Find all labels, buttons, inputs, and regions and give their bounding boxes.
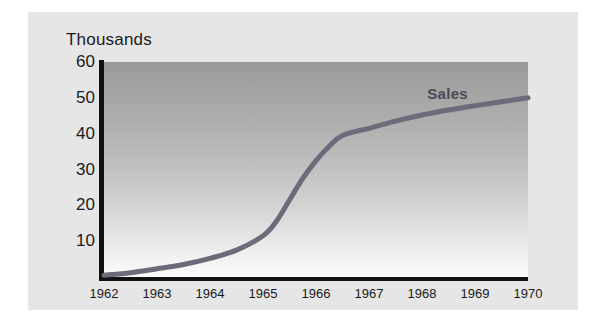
x-tick-label-1967: 1967 [355,286,384,301]
x-tick-label-1968: 1968 [408,286,437,301]
x-tick-label-1966: 1966 [302,286,331,301]
chart-card: Thousands 102030405060 19621963196419651… [28,12,578,310]
chart-title: Thousands [66,30,152,50]
x-tick-label-1962: 1962 [90,286,119,301]
x-tick-label-1963: 1963 [143,286,172,301]
plot-area: 102030405060 196219631964196519661967196… [104,62,528,277]
sales-curve-path [104,98,528,275]
x-tick-label-1969: 1969 [461,286,490,301]
y-tick-label-60: 60 [76,52,95,72]
sales-series-label: Sales [427,85,468,102]
y-tick-label-30: 30 [76,160,95,180]
y-tick-label-50: 50 [76,88,95,108]
x-tick-label-1964: 1964 [196,286,225,301]
x-axis-line [99,277,528,281]
y-tick-label-10: 10 [76,231,95,251]
x-tick-label-1970: 1970 [514,286,543,301]
y-tick-label-20: 20 [76,195,95,215]
y-tick-label-40: 40 [76,124,95,144]
x-tick-label-1965: 1965 [249,286,278,301]
